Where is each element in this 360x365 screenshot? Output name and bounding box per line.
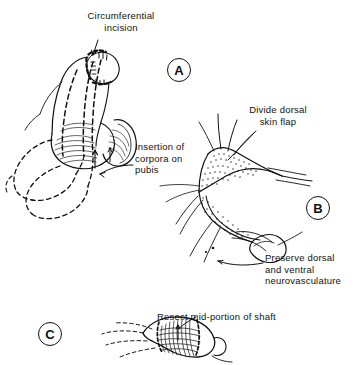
annotation-resect-mid-portion-of-shaft: Resect mid-portion of shaft xyxy=(157,311,337,323)
panel-letter-b: B xyxy=(306,196,330,220)
annotation-divide-dorsal-skin-flap: Divide dorsal skin flap xyxy=(226,104,330,127)
annotation-insertion-of-corpora-on-pubis: Insertion of corpora on pubis xyxy=(135,141,235,176)
annotation-circumferential-incision: Circumferential incision xyxy=(63,10,179,33)
panel-letter-c-text: C xyxy=(45,327,54,342)
panel-letter-c: C xyxy=(38,322,62,346)
panel-letter-a: A xyxy=(167,58,191,82)
panel-letter-a-text: A xyxy=(174,63,183,78)
panel-letter-b-text: B xyxy=(313,201,322,216)
surgical-figure: Circumferential incision Insertion of co… xyxy=(0,0,360,365)
annotation-preserve-dorsal-and-ventral-neurovasculature: Preserve dorsal and ventral neurovascula… xyxy=(265,252,360,287)
